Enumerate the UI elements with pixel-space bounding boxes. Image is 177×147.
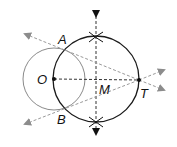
tangent-line-ta-extension (139, 70, 164, 80)
tangent-construction-diagram: A O M T B (0, 0, 177, 147)
label-a: A (57, 32, 67, 47)
label-t: T (140, 86, 149, 101)
segment-ot (54, 79, 139, 80)
point-o (52, 77, 56, 81)
label-o: O (37, 72, 47, 87)
label-b: B (57, 112, 66, 127)
point-t (137, 78, 141, 82)
label-m: M (99, 82, 110, 97)
